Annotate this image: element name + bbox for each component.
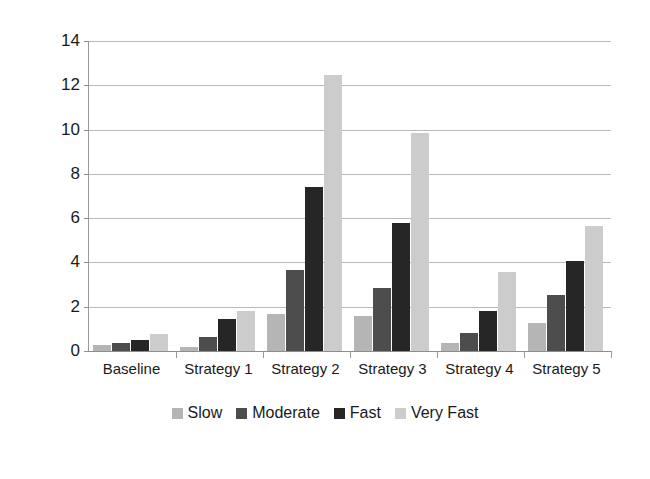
y-axis-tick <box>84 41 89 42</box>
y-axis-tick <box>84 130 89 131</box>
bar <box>150 334 168 351</box>
category-separator <box>524 351 525 358</box>
legend-label: Fast <box>350 404 381 422</box>
bar <box>267 314 285 351</box>
legend-swatch-icon <box>172 408 183 419</box>
bar <box>286 270 304 351</box>
y-axis-tick-label: 8 <box>71 164 80 184</box>
gridline <box>89 130 611 131</box>
x-axis-labels: BaselineStrategy 1Strategy 2Strategy 3St… <box>88 360 610 384</box>
gridline <box>89 41 611 42</box>
bar <box>479 311 497 351</box>
y-axis-tick <box>84 307 89 308</box>
bar <box>199 337 217 351</box>
category-separator <box>350 351 351 358</box>
category-separator <box>263 351 264 358</box>
bar <box>441 343 459 351</box>
category-separator <box>176 351 177 358</box>
bar <box>218 319 236 351</box>
y-axis-tick-label: 12 <box>61 75 80 95</box>
bar <box>373 288 391 351</box>
legend-item[interactable]: Very Fast <box>395 404 479 422</box>
bar <box>585 226 603 351</box>
x-axis-label: Baseline <box>103 360 161 377</box>
bar <box>392 223 410 351</box>
legend-swatch-icon <box>334 408 345 419</box>
plot-area: 02468101214 <box>88 41 611 351</box>
bar <box>324 75 342 351</box>
bar <box>528 323 546 351</box>
y-axis-tick <box>84 351 89 352</box>
y-axis-tick-label: 0 <box>71 341 80 361</box>
legend-label: Very Fast <box>411 404 479 422</box>
legend-item[interactable]: Moderate <box>236 404 320 422</box>
bar <box>547 295 565 351</box>
y-axis-tick-label: 2 <box>71 297 80 317</box>
y-axis-tick <box>84 262 89 263</box>
bar <box>93 345 111 351</box>
y-axis-tick-label: 6 <box>71 208 80 228</box>
bar <box>237 311 255 351</box>
chart-legend: SlowModerateFastVery Fast <box>0 404 650 422</box>
x-axis-label: Strategy 2 <box>271 360 339 377</box>
y-axis-title: Millions of Euros <box>10 0 38 68</box>
bar <box>305 187 323 351</box>
bar-chart: Millions of Euros 02468101214 BaselineSt… <box>0 0 650 479</box>
bar <box>112 343 130 351</box>
y-axis-tick <box>84 218 89 219</box>
gridline <box>89 307 611 308</box>
x-axis-label: Strategy 3 <box>358 360 426 377</box>
bar <box>180 347 198 351</box>
legend-item[interactable]: Fast <box>334 404 381 422</box>
y-axis-tick-label: 4 <box>71 252 80 272</box>
gridline <box>89 174 611 175</box>
bar <box>354 316 372 351</box>
gridline <box>89 218 611 219</box>
y-axis-tick-label: 14 <box>61 31 80 51</box>
gridline <box>89 262 611 263</box>
y-axis-tick <box>84 174 89 175</box>
gridline <box>89 85 611 86</box>
legend-swatch-icon <box>395 408 406 419</box>
bar <box>460 333 478 351</box>
bar <box>411 133 429 351</box>
y-axis-tick <box>84 85 89 86</box>
x-axis-label: Strategy 1 <box>184 360 252 377</box>
legend-label: Moderate <box>252 404 320 422</box>
bar <box>131 340 149 351</box>
legend-label: Slow <box>188 404 223 422</box>
y-axis-tick-label: 10 <box>61 120 80 140</box>
bar <box>498 272 516 351</box>
legend-swatch-icon <box>236 408 247 419</box>
bar <box>566 261 584 351</box>
legend-item[interactable]: Slow <box>172 404 223 422</box>
category-separator <box>611 351 612 358</box>
x-axis-label: Strategy 5 <box>532 360 600 377</box>
category-separator <box>437 351 438 358</box>
x-axis-label: Strategy 4 <box>445 360 513 377</box>
